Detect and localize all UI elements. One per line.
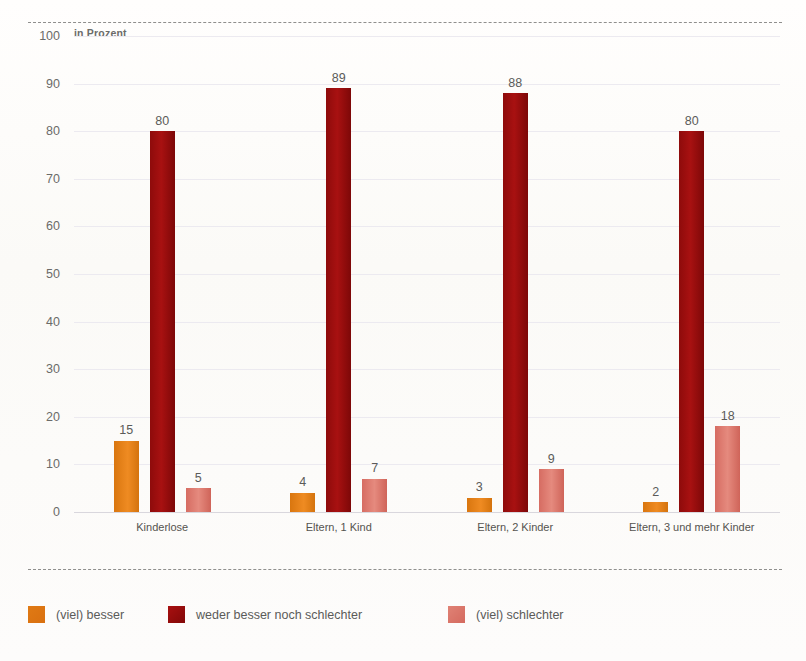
bar-value-label: 4	[299, 476, 306, 489]
x-axis-category-label: Eltern, 1 Kind	[306, 521, 372, 533]
y-axis-tick-label: 70	[46, 172, 60, 186]
top-divider	[28, 22, 782, 23]
bar-value-label: 80	[155, 115, 169, 128]
bar-item[interactable]: 3	[467, 36, 492, 512]
bar-value-label: 2	[652, 486, 659, 499]
bar[interactable]	[326, 88, 351, 512]
legend-swatch-icon	[448, 606, 465, 623]
bar-group: 15805Kinderlose	[74, 36, 251, 512]
bar[interactable]	[114, 441, 139, 512]
bar[interactable]	[715, 426, 740, 512]
legend-label: weder besser noch schlechter	[196, 608, 362, 622]
bar-item[interactable]: 18	[715, 36, 740, 512]
y-axis-tick-label: 100	[39, 29, 60, 43]
bar[interactable]	[362, 479, 387, 512]
x-axis-category-label: Eltern, 2 Kinder	[477, 521, 553, 533]
bar[interactable]	[186, 488, 211, 512]
plot-area: in Prozent 1009080706050403020100 15805K…	[74, 36, 780, 512]
legend-label: (viel) schlechter	[476, 608, 564, 622]
chart-page: in Prozent 1009080706050403020100 15805K…	[0, 0, 806, 661]
bar-value-label: 15	[119, 424, 133, 437]
bottom-divider	[28, 569, 782, 570]
y-axis-tick-label: 0	[53, 505, 60, 519]
bar-group: 4897Eltern, 1 Kind	[251, 36, 428, 512]
legend-swatch-icon	[28, 606, 45, 623]
bar-value-label: 88	[508, 77, 522, 90]
y-axis-tick-label: 50	[46, 267, 60, 281]
legend-item[interactable]: (viel) schlechter	[448, 606, 564, 623]
legend-item[interactable]: weder besser noch schlechter	[168, 606, 362, 623]
legend-label: (viel) besser	[56, 608, 124, 622]
bar[interactable]	[290, 493, 315, 512]
legend-item[interactable]: (viel) besser	[28, 606, 124, 623]
bar[interactable]	[539, 469, 564, 512]
legend-swatch-icon	[168, 606, 185, 623]
bar-item[interactable]: 88	[503, 36, 528, 512]
y-axis-tick-label: 90	[46, 77, 60, 91]
bar-value-label: 3	[476, 481, 483, 494]
bar[interactable]	[150, 131, 175, 512]
bar-item[interactable]: 4	[290, 36, 315, 512]
bar[interactable]	[643, 502, 668, 512]
bar-item[interactable]: 9	[539, 36, 564, 512]
bar-item[interactable]: 15	[114, 36, 139, 512]
bar-value-label: 89	[332, 72, 346, 85]
bar-item[interactable]: 2	[643, 36, 668, 512]
x-axis-category-label: Kinderlose	[136, 521, 188, 533]
bar-item[interactable]: 80	[150, 36, 175, 512]
bar-value-label: 80	[685, 115, 699, 128]
bar-item[interactable]: 7	[362, 36, 387, 512]
bar-value-label: 18	[721, 410, 735, 423]
bar[interactable]	[503, 93, 528, 512]
y-axis-tick-label: 30	[46, 362, 60, 376]
bar-value-label: 7	[371, 462, 378, 475]
bar-value-label: 9	[548, 453, 555, 466]
bars: 4897	[251, 36, 428, 512]
bar[interactable]	[679, 131, 704, 512]
bars: 28018	[604, 36, 781, 512]
bars: 3889	[427, 36, 604, 512]
y-axis-tick-label: 40	[46, 315, 60, 329]
bar-item[interactable]: 5	[186, 36, 211, 512]
y-axis-tick-label: 80	[46, 124, 60, 138]
x-axis-category-label: Eltern, 3 und mehr Kinder	[629, 521, 754, 533]
bars: 15805	[74, 36, 251, 512]
bar-item[interactable]: 80	[679, 36, 704, 512]
bar-group: 3889Eltern, 2 Kinder	[427, 36, 604, 512]
bar-item[interactable]: 89	[326, 36, 351, 512]
y-axis-tick-label: 10	[46, 457, 60, 471]
bar-value-label: 5	[195, 472, 202, 485]
bar[interactable]	[467, 498, 492, 512]
y-axis-tick-label: 60	[46, 219, 60, 233]
bar-group: 28018Eltern, 3 und mehr Kinder	[604, 36, 781, 512]
y-axis-tick-label: 20	[46, 410, 60, 424]
gridline	[74, 512, 780, 513]
